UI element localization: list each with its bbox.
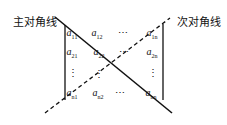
anti-diagonal-label: 次对角线 [177,13,221,29]
matrix-entry-ann: ann [146,87,157,100]
matrix-dots-row4: ⋯ [115,87,125,98]
matrix-entry-a11: a11 [67,27,78,40]
matrix-dots-row2: ⋯ [119,46,129,57]
matrix-entry-an1: an1 [67,87,78,100]
matrix-entry-a21: a21 [67,46,78,59]
matrix-entry-a2n: a2n [147,46,158,59]
matrix-entry-a1n: a1n [147,27,158,40]
matrix-dots-row1: ⋯ [118,27,128,38]
matrix-entry-a12: a12 [92,27,103,40]
matrix-vdots-coln: ⋮ [148,67,158,78]
matrix-vdots-col2: ⋮ [94,68,104,79]
matrix-entry-an2: an2 [93,87,104,100]
main-diagonal-label: 主对角线 [13,13,57,29]
matrix-entry-a22: a22 [94,46,105,59]
matrix-vdots-col1: ⋮ [68,67,78,78]
